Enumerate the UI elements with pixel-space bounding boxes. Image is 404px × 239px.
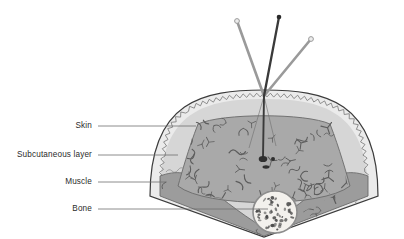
tip-lower-oval bbox=[263, 165, 270, 168]
label-bone: Bone bbox=[72, 204, 92, 213]
instrument-right-handle-icon bbox=[309, 37, 314, 42]
diagram-canvas: SkinSubcutaneous layerMuscleBone bbox=[0, 0, 404, 239]
needle-center-shaft-upper[interactable] bbox=[264, 17, 279, 96]
instrument-left[interactable] bbox=[237, 21, 264, 96]
label-muscle: Muscle bbox=[65, 177, 92, 186]
tip-side-dot bbox=[271, 157, 275, 161]
label-subcutaneous: Subcutaneous layer bbox=[17, 150, 92, 159]
label-skin: Skin bbox=[75, 121, 92, 130]
instrument-right[interactable] bbox=[264, 39, 311, 96]
needle-tip-blob bbox=[259, 156, 268, 162]
anatomical-diagram: SkinSubcutaneous layerMuscleBone bbox=[0, 0, 404, 239]
needle-cap-icon bbox=[277, 15, 282, 20]
instrument-left-handle-icon bbox=[235, 19, 240, 24]
bone-structure bbox=[253, 191, 297, 233]
needle-center-shaft-lower[interactable] bbox=[263, 96, 264, 157]
